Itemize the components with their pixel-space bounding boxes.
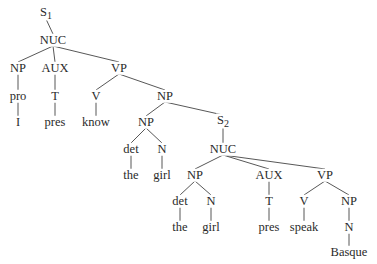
node-label: T [51, 89, 59, 103]
node-label: V [299, 194, 308, 208]
tree-node-np4: NP [186, 169, 204, 182]
tree-node-speak: speak [289, 221, 319, 234]
tree-node-det2: det [171, 195, 188, 208]
node-label: the [123, 168, 138, 182]
edge-np3-n1 [146, 128, 162, 143]
tree-node-nuc1: NUC [39, 34, 67, 47]
tree-node-n2: N [205, 195, 216, 208]
tree-node-n3: N [343, 221, 354, 234]
tree-node-pres2: pres [258, 221, 281, 234]
tree-node-the2: the [171, 221, 188, 234]
tree-node-v2: V [298, 195, 309, 208]
tree-node-np5: NP [340, 195, 358, 208]
tree-node-basque: Basque [330, 246, 369, 259]
node-label: speak [290, 220, 318, 234]
node-label: know [82, 115, 110, 129]
node-label: NP [157, 89, 173, 103]
edge-vp1-np2 [119, 74, 165, 90]
node-label: pres [259, 220, 280, 234]
tree-node-np3: NP [137, 116, 155, 129]
tree-node-pro: pro [9, 90, 28, 103]
node-label: the [172, 220, 187, 234]
node-label: det [123, 142, 138, 156]
tree-node-vp1: VP [110, 62, 128, 75]
edge-s1-nuc1 [46, 19, 53, 34]
node-label: T [265, 194, 273, 208]
tree-node-s2: S2 [216, 114, 230, 129]
edge-np3-det1 [131, 128, 146, 143]
tree-node-s1: S1 [39, 6, 53, 21]
node-label: NUC [210, 142, 236, 156]
tree-node-t1: T [50, 90, 60, 103]
node-subscript: 1 [47, 10, 52, 21]
node-label: Basque [331, 245, 368, 259]
node-label: NP [187, 168, 203, 182]
node-label: girl [153, 168, 170, 182]
tree-node-girl1: girl [152, 169, 171, 182]
tree-node-vp2: VP [316, 169, 334, 182]
node-label: AUX [41, 61, 68, 75]
node-label: N [157, 142, 166, 156]
node-label: V [91, 89, 100, 103]
tree-node-aux1: AUX [40, 62, 69, 75]
tree-node-n1: N [156, 143, 167, 156]
node-label: S [217, 113, 224, 127]
node-label: girl [202, 220, 219, 234]
tree-node-t2: T [264, 195, 274, 208]
node-label: I [16, 115, 20, 129]
edge-nuc1-aux1 [53, 46, 55, 62]
edge-np2-s2 [165, 102, 223, 115]
tree-node-det1: det [122, 143, 139, 156]
node-label: pro [10, 89, 27, 103]
syntax-tree-diagram: S1NUCNPAUXVPproTVNPIpresknowNPS2detNNUCt… [0, 0, 377, 264]
tree-node-girl2: girl [201, 221, 220, 234]
edge-vp1-v1 [96, 74, 119, 90]
node-label: NP [341, 194, 357, 208]
node-label: VP [317, 168, 333, 182]
node-label: NP [10, 61, 26, 75]
tree-node-nuc2: NUC [209, 143, 237, 156]
tree-node-v1: V [90, 90, 101, 103]
node-label: det [172, 194, 187, 208]
tree-node-pres1: pres [44, 116, 67, 129]
tree-node-aux2: AUX [254, 169, 283, 182]
node-label: NUC [40, 33, 66, 47]
node-label: pres [45, 115, 66, 129]
node-subscript: 2 [224, 118, 229, 129]
tree-node-know: know [81, 116, 111, 129]
tree-node-np2: NP [156, 90, 174, 103]
edge-nuc1-vp1 [53, 46, 119, 62]
edge-nuc1-np1 [18, 46, 53, 62]
node-label: AUX [255, 168, 282, 182]
tree-node-i: I [15, 116, 21, 129]
node-label: VP [111, 61, 127, 75]
node-label: S [40, 5, 47, 19]
node-label: NP [138, 115, 154, 129]
node-label: N [344, 220, 353, 234]
tree-node-np1: NP [9, 62, 27, 75]
tree-node-the1: the [122, 169, 139, 182]
node-label: N [206, 194, 215, 208]
